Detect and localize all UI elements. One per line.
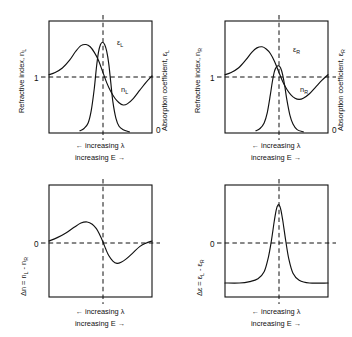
svg-text:Refractive index, nL: Refractive index, nL xyxy=(17,49,27,113)
panel-top-left: Refractive index, nL Absorption coeffici… xyxy=(0,0,176,168)
top-left-y-axis-title: Refractive index, nL xyxy=(17,49,27,113)
curve-delta-epsilon xyxy=(225,205,328,284)
top-left-n-label: nL xyxy=(121,85,128,95)
top-right-tick-zero: 0 xyxy=(332,126,337,135)
svg-text:Absorption coefficient, εR: Absorption coefficient, εR xyxy=(336,49,346,131)
top-right-caption-energy: increasing E → xyxy=(251,153,301,162)
curve-n-R xyxy=(225,47,328,100)
top-left-caption-energy: increasing E → xyxy=(75,153,125,162)
bottom-left-plot-frame xyxy=(49,185,152,297)
top-right-n-label: nR xyxy=(300,85,308,95)
bottom-left-tick-zero: 0 xyxy=(34,240,39,249)
svg-text:Δn = nL - nR: Δn = nL - nR xyxy=(19,257,29,296)
top-left-tick-one: 1 xyxy=(34,74,39,83)
top-left-epsilon-label: εL xyxy=(117,38,123,48)
bottom-right-caption-lambda: ← increasing λ xyxy=(252,307,301,316)
bottom-right-plot-frame xyxy=(225,185,328,297)
circular-dichroism-figure: Refractive index, nL Absorption coeffici… xyxy=(0,0,352,337)
bottom-left-caption-energy: increasing E → xyxy=(75,319,125,328)
panel-top-right: Refractive index, nR Absorption coeffici… xyxy=(176,0,352,168)
panel-bottom-right: Δε = εL - εR 0 ← increasing λ increasing… xyxy=(176,168,352,337)
top-right-tick-one: 1 xyxy=(210,74,215,83)
bottom-right-tick-zero: 0 xyxy=(210,240,215,249)
top-left-right-axis-title: Absorption coefficient, εL xyxy=(160,50,170,131)
bottom-left-y-axis-title: Δn = nL - nR xyxy=(19,257,29,296)
curve-n-L xyxy=(49,44,152,105)
top-right-caption-lambda: ← increasing λ xyxy=(252,141,301,150)
top-right-right-axis-title: Absorption coefficient, εR xyxy=(336,49,346,131)
svg-text:Absorption coefficient, εL: Absorption coefficient, εL xyxy=(160,50,170,131)
top-left-caption-lambda: ← increasing λ xyxy=(76,141,125,150)
bottom-left-caption-lambda: ← increasing λ xyxy=(76,307,125,316)
panel-bottom-left: Δn = nL - nR 0 ← increasing λ increasing… xyxy=(0,168,176,337)
svg-text:Refractive index, nR: Refractive index, nR xyxy=(193,48,203,113)
top-right-y-axis-title: Refractive index, nR xyxy=(193,48,203,113)
svg-text:Δε = εL - εR: Δε = εL - εR xyxy=(195,259,205,296)
bottom-right-y-axis-title: Δε = εL - εR xyxy=(195,259,205,296)
top-right-epsilon-label: εR xyxy=(293,45,300,55)
top-left-tick-zero: 0 xyxy=(156,126,161,135)
bottom-right-caption-energy: increasing E → xyxy=(251,319,301,328)
